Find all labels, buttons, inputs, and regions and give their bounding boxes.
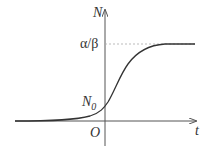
diagram-canvas xyxy=(0,0,210,155)
x-axis-label: t xyxy=(195,124,199,138)
asymptote-label: α/β xyxy=(80,37,98,51)
logistic-growth-diagram: N α/β N0 O t xyxy=(0,0,210,155)
n0-main: N xyxy=(82,94,91,109)
n0-subscript: 0 xyxy=(91,101,96,112)
y-axis-label: N xyxy=(93,6,102,20)
n0-label: N0 xyxy=(82,95,96,112)
origin-label: O xyxy=(90,126,100,140)
